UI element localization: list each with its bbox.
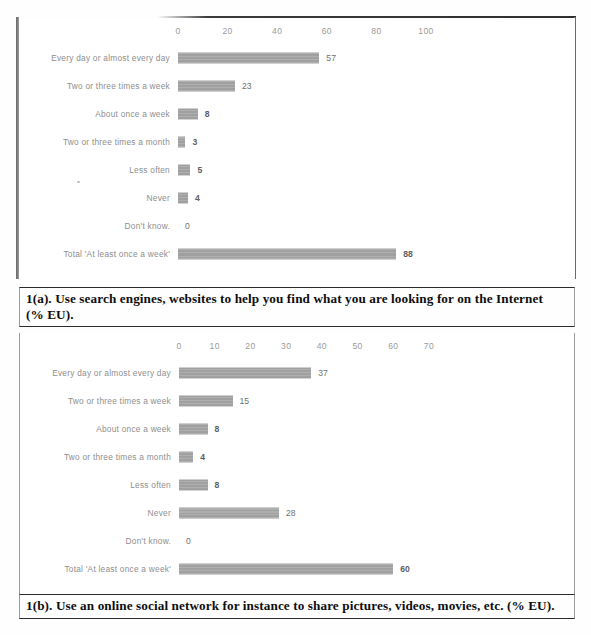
- chart-row: Total 'At least once a week'88: [19, 240, 575, 268]
- chart-bar-value: 57: [326, 53, 336, 63]
- chart-bar-value: 3: [192, 137, 197, 147]
- chart-row-label: Don't know.: [19, 221, 170, 231]
- axis-tick-label: 60: [322, 26, 332, 36]
- chart-row-track: 28: [179, 499, 568, 527]
- chart-bar: [179, 564, 393, 575]
- chart-bar: [179, 424, 208, 435]
- chart-row-label: Never: [19, 193, 170, 203]
- axis-tick-label: 0: [175, 26, 180, 36]
- chart-row-label: Less often: [20, 480, 171, 490]
- chart-bar-value: 4: [200, 452, 205, 462]
- chart-bar: [179, 508, 279, 519]
- chart-row-track: 8: [179, 415, 568, 443]
- axis-tick-label: 60: [388, 341, 398, 351]
- axis-tick-label: 20: [222, 26, 232, 36]
- chart-bar: [178, 109, 198, 120]
- chart-row: Every day or almost every day37: [20, 359, 574, 387]
- chart-row: Never4: [19, 184, 575, 212]
- chart-row: Less often8: [20, 471, 574, 499]
- chart-row-label: Total 'At least once a week': [20, 564, 171, 574]
- chart-row-track: 4: [179, 443, 568, 471]
- chart-row-track: 15: [179, 387, 568, 415]
- chart-1a: 020406080100 Every day or almost every d…: [19, 18, 575, 280]
- chart-bar: [179, 452, 193, 463]
- chart-bar-value: 28: [286, 508, 296, 518]
- axis-tick-label: 50: [352, 341, 362, 351]
- axis-tick-label: 40: [317, 341, 327, 351]
- chart-row: Every day or almost every day57: [19, 44, 575, 72]
- chart-1b: 010203040506070 Every day or almost ever…: [19, 333, 575, 595]
- chart-row: Never28: [20, 499, 574, 527]
- axis-tick-label: 70: [424, 341, 434, 351]
- chart-row-track: 57: [178, 44, 569, 72]
- axis-tick-label: 10: [210, 341, 220, 351]
- chart-row-label: Every day or almost every day: [19, 53, 170, 63]
- chart-row-label: About once a week: [19, 109, 170, 119]
- chart-row-label: Two or three times a week: [19, 81, 170, 91]
- chart-row-track: 0: [179, 527, 568, 555]
- chart-row-track: 8: [179, 471, 568, 499]
- chart-bar-value: 4: [195, 193, 200, 203]
- chart-row-label: Don't know.: [20, 536, 171, 546]
- chart-bar: [179, 480, 208, 491]
- chart-row-label: About once a week: [20, 424, 171, 434]
- chart-row: About once a week8: [19, 100, 575, 128]
- chart-row-track: 23: [178, 72, 569, 100]
- chart-row-label: Two or three times a week: [20, 396, 171, 406]
- chart-bar: [178, 53, 319, 64]
- caption-1a-line1: 1(a). Use search engines, websites to he…: [26, 291, 543, 306]
- chart-bar-value: 8: [205, 109, 210, 119]
- chart-bar-value: 23: [242, 81, 252, 91]
- chart-bar: [178, 137, 185, 148]
- chart-bar: [178, 165, 190, 176]
- chart-bar-value: 5: [197, 165, 202, 175]
- chart-bar: [178, 193, 188, 204]
- axis-tick-label: 80: [371, 26, 381, 36]
- scanned-page: 020406080100 Every day or almost every d…: [0, 0, 591, 635]
- chart-row-label: Less often: [19, 165, 170, 175]
- chart-row-label: Never: [20, 508, 171, 518]
- chart-row-label: Total 'At least once a week': [19, 249, 170, 259]
- chart-1b-x-axis: 010203040506070: [20, 341, 574, 355]
- chart-bar-value: 0: [186, 536, 191, 546]
- scan-artifact-speck: [77, 181, 80, 183]
- chart-bar-value: 0: [185, 221, 190, 231]
- chart-bar-value: 15: [240, 396, 250, 406]
- chart-bar: [179, 368, 311, 379]
- chart-row-track: 5: [178, 156, 569, 184]
- caption-1b-line1: 1(b). Use an online social network for i…: [26, 598, 555, 613]
- chart-row-track: 37: [179, 359, 568, 387]
- chart-1a-rows: Every day or almost every day57Two or th…: [19, 44, 575, 268]
- axis-tick-label: 100: [418, 26, 433, 36]
- chart-bar: [178, 249, 396, 260]
- chart-row-track: 3: [178, 128, 569, 156]
- chart-row: Two or three times a week15: [20, 387, 574, 415]
- chart-row-label: Two or three times a month: [19, 137, 170, 147]
- chart-row-track: 60: [179, 555, 568, 583]
- chart-row: Don't know.0: [19, 212, 575, 240]
- caption-1a: 1(a). Use search engines, websites to he…: [19, 287, 575, 327]
- chart-bar-value: 60: [400, 564, 410, 574]
- chart-bar: [178, 81, 235, 92]
- chart-bar-value: 37: [318, 368, 328, 378]
- chart-1b-rows: Every day or almost every day37Two or th…: [20, 359, 574, 583]
- chart-row-label: Every day or almost every day: [20, 368, 171, 378]
- chart-row-track: 88: [178, 240, 569, 268]
- axis-tick-label: 20: [245, 341, 255, 351]
- chart-row-track: 8: [178, 100, 569, 128]
- axis-tick-label: 0: [176, 341, 181, 351]
- chart-row-track: 4: [178, 184, 569, 212]
- axis-tick-label: 30: [281, 341, 291, 351]
- chart-bar: [179, 396, 233, 407]
- chart-1a-x-axis: 020406080100: [19, 26, 575, 40]
- chart-row-label: Two or three times a month: [20, 452, 171, 462]
- caption-1a-line2: (% EU).: [26, 307, 568, 323]
- chart-row: Two or three times a month4: [20, 443, 574, 471]
- chart-bar-value: 8: [215, 424, 220, 434]
- chart-row: About once a week8: [20, 415, 574, 443]
- chart-row: Total 'At least once a week'60: [20, 555, 574, 583]
- chart-row: Two or three times a month3: [19, 128, 575, 156]
- axis-tick-label: 40: [272, 26, 282, 36]
- chart-row: Don't know.0: [20, 527, 574, 555]
- chart-bar-value: 8: [215, 480, 220, 490]
